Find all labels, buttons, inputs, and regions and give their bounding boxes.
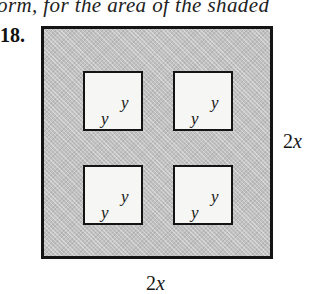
side-length-label-y: y [191, 110, 199, 127]
outer-square-width-label: 2x [146, 272, 165, 294]
side-length-label-y: y [101, 110, 109, 127]
inner-square-top-right: y y [173, 71, 233, 131]
width-label-coefficient: 2 [146, 272, 156, 294]
inner-square-bottom-right: y y [173, 165, 233, 225]
problem-number: 18. [0, 24, 25, 47]
width-label-variable: x [156, 272, 165, 294]
height-label-variable: x [293, 130, 302, 152]
side-length-label-y: y [191, 204, 199, 221]
height-label-coefficient: 2 [283, 130, 293, 152]
inner-square-top-left: y y [83, 71, 143, 131]
inner-square-bottom-left: y y [83, 165, 143, 225]
outer-square-height-label: 2x [283, 130, 302, 153]
side-length-label-y: y [121, 94, 129, 111]
side-length-label-y: y [101, 204, 109, 221]
side-length-label-y: y [121, 188, 129, 205]
side-length-label-y: y [211, 188, 219, 205]
side-length-label-y: y [211, 94, 219, 111]
shaded-square-figure: y y y y y y y y [41, 26, 273, 259]
page-header-text-fragment: orm, for the area of the shaded [0, 0, 269, 18]
